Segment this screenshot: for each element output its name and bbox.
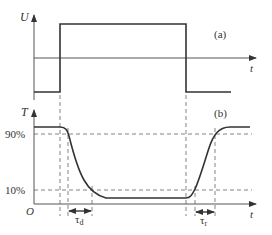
rise-time-label: τr (200, 214, 207, 228)
level-10-label: 10% (5, 184, 25, 196)
u-axis-label: U (20, 10, 30, 24)
panel-b-label: (b) (214, 107, 227, 120)
level-90-label: 90% (5, 128, 25, 140)
panel-a: U (a) t (20, 10, 256, 100)
t-axis-label-b: t (250, 208, 254, 220)
panel-b: T (b) 90% 10% O t τd τr (5, 105, 256, 228)
temperature-response-curve (34, 127, 250, 198)
t-axis-label-a: t (250, 62, 254, 74)
t-axis-y-label: T (21, 105, 29, 119)
delay-time-label: τd (75, 213, 83, 227)
pulse-response-diagram: U (a) t T (b) (0, 0, 272, 235)
origin-label: O (26, 205, 34, 217)
panel-a-label: (a) (214, 28, 227, 41)
